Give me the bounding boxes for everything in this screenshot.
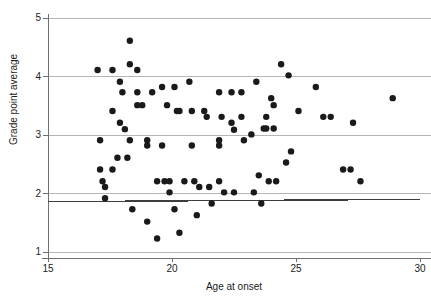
data-point — [171, 84, 177, 90]
data-point — [176, 229, 182, 235]
data-point — [204, 114, 210, 120]
data-point — [99, 178, 105, 184]
data-point — [328, 114, 334, 120]
data-point — [241, 137, 247, 143]
data-point — [270, 125, 276, 131]
data-point — [159, 142, 165, 148]
data-point — [109, 108, 115, 114]
data-point — [119, 89, 125, 95]
data-point — [127, 38, 133, 44]
data-point — [127, 61, 133, 67]
x-tick-label-20: 20 — [166, 264, 177, 274]
data-point — [181, 178, 187, 184]
data-point — [191, 178, 197, 184]
data-point — [248, 131, 254, 137]
data-point — [285, 72, 291, 78]
data-point — [216, 142, 222, 148]
y-tick-label-4: 4 — [31, 72, 41, 82]
data-point — [295, 108, 301, 114]
data-point — [124, 155, 130, 161]
data-point — [228, 89, 234, 95]
data-point — [196, 184, 202, 190]
data-point — [117, 120, 123, 126]
data-point — [97, 166, 103, 172]
data-point — [189, 142, 195, 148]
data-point — [313, 84, 319, 90]
data-point — [97, 137, 103, 143]
scatter-plot-figure: Age at onset Grade point average 1520253… — [0, 0, 431, 306]
data-point — [154, 235, 160, 241]
data-point — [94, 67, 100, 73]
data-point — [144, 142, 150, 148]
data-point — [134, 89, 140, 95]
y-tick-label-5: 5 — [31, 13, 41, 23]
data-point — [166, 189, 172, 195]
x-tick-label-30: 30 — [414, 264, 425, 274]
data-point — [228, 120, 234, 126]
data-point — [268, 95, 274, 101]
data-point — [238, 89, 244, 95]
x-tick-label-25: 25 — [290, 264, 301, 274]
data-point — [218, 114, 224, 120]
data-point — [176, 108, 182, 114]
y-axis-title: Grade point average — [8, 131, 19, 145]
y-tick-label-1: 1 — [31, 247, 41, 257]
data-point — [201, 108, 207, 114]
data-point — [320, 114, 326, 120]
data-point — [189, 108, 195, 114]
data-point — [208, 200, 214, 206]
data-point — [347, 166, 353, 172]
data-point — [390, 95, 396, 101]
data-point — [283, 159, 289, 165]
data-point — [122, 126, 128, 132]
data-point — [102, 184, 108, 190]
data-point — [129, 206, 135, 212]
data-point — [288, 148, 294, 154]
data-point — [144, 218, 150, 224]
plot-canvas — [0, 0, 431, 306]
data-points — [94, 38, 396, 242]
data-point — [109, 166, 115, 172]
data-point — [166, 178, 172, 184]
data-point — [206, 184, 212, 190]
data-point — [270, 102, 276, 108]
data-point — [127, 137, 133, 143]
data-point — [238, 114, 244, 120]
data-point — [253, 79, 259, 85]
data-point — [357, 178, 363, 184]
y-tick-label-3: 3 — [31, 130, 41, 140]
data-point — [278, 61, 284, 67]
data-point — [256, 172, 262, 178]
data-point — [266, 178, 272, 184]
data-point — [154, 178, 160, 184]
data-point — [194, 212, 200, 218]
data-point — [134, 67, 140, 73]
x-tick-label-15: 15 — [42, 264, 53, 274]
data-point — [102, 195, 108, 201]
gridlines — [47, 18, 431, 252]
data-point — [109, 67, 115, 73]
x-axis-title: Age at onset — [206, 281, 262, 292]
data-point — [258, 200, 264, 206]
data-point — [340, 166, 346, 172]
data-point — [231, 189, 237, 195]
data-point — [171, 206, 177, 212]
data-point — [263, 125, 269, 131]
data-point — [350, 120, 356, 126]
data-point — [216, 178, 222, 184]
data-point — [186, 79, 192, 85]
data-point — [273, 178, 279, 184]
data-point — [159, 84, 165, 90]
data-point — [221, 189, 227, 195]
data-point — [216, 89, 222, 95]
data-point — [114, 155, 120, 161]
data-point — [139, 102, 145, 108]
data-point — [117, 79, 123, 85]
y-tick-label-2: 2 — [31, 189, 41, 199]
axis-spines — [42, 14, 431, 258]
data-point — [251, 189, 257, 195]
data-point — [164, 102, 170, 108]
data-point — [149, 89, 155, 95]
data-point — [231, 127, 237, 133]
data-point — [263, 114, 269, 120]
